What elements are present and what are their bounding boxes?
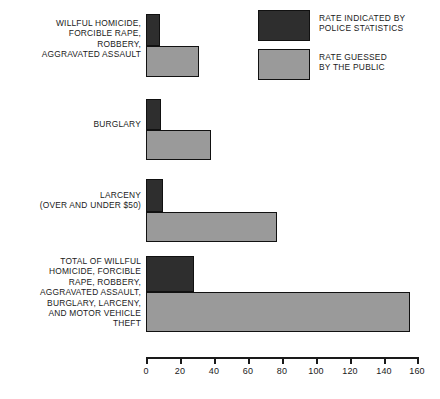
category-label-violent-crime: WILLFUL HOMICIDE, FORCIBLE RAPE, ROBBERY… (0, 18, 141, 60)
axis-tick-80 (282, 357, 284, 364)
legend-label-police: RATE INDICATED BY POLICE STATISTICS (319, 10, 405, 33)
axis-tick-160 (417, 357, 419, 364)
axis-tick-120 (350, 357, 352, 364)
legend-label-public: RATE GUESSED BY THE PUBLIC (319, 49, 387, 72)
bar-public-larceny (146, 212, 277, 242)
axis-label-140: 140 (376, 366, 392, 376)
axis-tick-140 (384, 357, 386, 364)
chart-legend: RATE INDICATED BY POLICE STATISTICS RATE… (258, 10, 438, 88)
bar-public-violent-crime (146, 46, 199, 77)
bar-police-violent-crime (146, 14, 160, 46)
axis-tick-20 (180, 357, 182, 364)
bars-larceny (146, 179, 277, 242)
bar-public-total (146, 292, 410, 332)
bar-public-burglary (146, 130, 211, 160)
axis-label-80: 80 (277, 366, 287, 376)
category-label-burglary: BURGLARY (0, 119, 141, 129)
axis-label-0: 0 (143, 366, 148, 376)
axis-tick-0 (146, 357, 148, 364)
category-label-total: TOTAL OF WILLFUL HOMICIDE, FORCIBLE RAPE… (0, 256, 141, 329)
legend-swatch-police (258, 10, 310, 41)
bar-chart: RATE INDICATED BY POLICE STATISTICS RATE… (0, 0, 440, 399)
bars-violent-crime (146, 14, 199, 77)
axis-label-40: 40 (209, 366, 219, 376)
legend-swatch-public (258, 49, 310, 80)
bars-burglary (146, 99, 211, 160)
x-axis: 0 20 40 60 80 100 120 140 160 (146, 357, 418, 358)
bar-police-total (146, 256, 194, 292)
category-label-larceny: LARCENY (OVER AND UNDER $50) (0, 190, 141, 211)
axis-label-60: 60 (243, 366, 253, 376)
axis-tick-60 (248, 357, 250, 364)
axis-label-120: 120 (342, 366, 358, 376)
legend-item-police: RATE INDICATED BY POLICE STATISTICS (258, 10, 438, 41)
axis-label-20: 20 (175, 366, 185, 376)
bar-police-larceny (146, 179, 163, 212)
axis-label-100: 100 (308, 366, 324, 376)
bars-total (146, 256, 410, 332)
axis-tick-100 (316, 357, 318, 364)
bar-police-burglary (146, 99, 161, 130)
axis-label-160: 160 (409, 366, 425, 376)
legend-item-public: RATE GUESSED BY THE PUBLIC (258, 49, 438, 80)
axis-tick-40 (214, 357, 216, 364)
